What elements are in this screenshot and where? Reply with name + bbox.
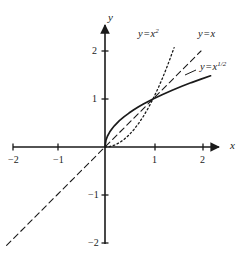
y-tick-label-2: 2: [92, 46, 97, 56]
sqrt-label-leader: [185, 70, 196, 75]
y-tick-label--1: −1: [88, 190, 99, 200]
curve-label-equals: =: [205, 61, 213, 72]
curve-label-x-squared: y=x2: [138, 29, 159, 40]
curve-label-equals: =: [203, 28, 211, 39]
curve-label-base: x: [211, 28, 216, 39]
curve-label-lhs: y: [200, 61, 205, 72]
curve-y-x: [7, 51, 201, 245]
x-tick-label--1: −1: [53, 155, 64, 165]
curve-label-x-linear: y=x: [198, 29, 215, 40]
graph-figure: −2 −1 1 2 2 1 −1 −2 x y y=x2 y=x y=x1/2: [0, 0, 247, 258]
curve-label-lhs: y: [198, 28, 203, 39]
curve-label-exponent: 1/2: [217, 60, 226, 68]
curve-label-exponent: 2: [155, 27, 159, 35]
x-tick-label-2: 2: [200, 155, 205, 165]
curve-y-x-2: [105, 48, 174, 147]
y-tick-label--2: −2: [88, 238, 99, 248]
y-axis-label: y: [108, 12, 113, 23]
curve-label-equals: =: [143, 28, 151, 39]
y-tick-label-1: 1: [92, 94, 97, 104]
curve-label-sqrt-x: y=x1/2: [200, 62, 226, 73]
x-tick-label--2: −2: [8, 155, 19, 165]
curve-label-lhs: y: [138, 28, 143, 39]
x-axis-label: x: [230, 140, 235, 151]
curve-y-x-1-2: [105, 76, 211, 147]
x-tick-label-1: 1: [152, 155, 157, 165]
